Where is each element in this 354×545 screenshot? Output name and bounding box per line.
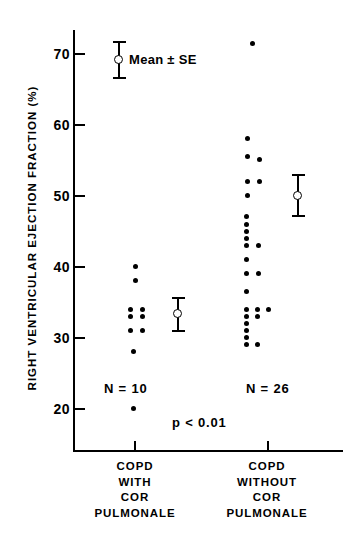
y-tick-70	[75, 53, 85, 55]
data-point	[131, 349, 136, 354]
y-tick-label-60: 60	[36, 117, 70, 133]
y-tick-60	[75, 124, 85, 126]
cat-right-line-1: COPD	[207, 459, 327, 475]
y-tick-30	[75, 337, 85, 339]
cat-left-line-2: WITH	[75, 475, 195, 491]
data-point	[244, 222, 249, 227]
mean-circle-right	[293, 191, 302, 200]
data-point	[244, 229, 249, 234]
data-point	[128, 307, 133, 312]
data-point	[133, 278, 138, 283]
data-point	[245, 193, 250, 198]
data-point	[244, 289, 249, 294]
y-tick-label-50: 50	[36, 188, 70, 204]
cat-right-line-4: PULMONALE	[207, 506, 327, 522]
y-axis-line	[73, 30, 75, 452]
data-point	[244, 314, 249, 319]
cat-right-line-2: WITHOUT	[207, 475, 327, 491]
data-point	[140, 307, 145, 312]
y-tick-40	[75, 266, 85, 268]
data-point	[244, 328, 249, 333]
data-point	[245, 136, 250, 141]
y-tick-50	[75, 195, 85, 197]
x-category-label-right: COPD WITHOUT COR PULMONALE	[207, 459, 327, 521]
n-label-right: N = 26	[246, 381, 289, 396]
mean-circle-left	[173, 309, 182, 318]
y-tick-label-30: 30	[36, 330, 70, 346]
data-point	[245, 179, 250, 184]
x-axis-line	[73, 450, 343, 452]
data-point	[244, 271, 249, 276]
p-value-label: p < 0.01	[172, 415, 226, 430]
data-point	[250, 41, 255, 46]
mean-se-marker-left	[171, 297, 185, 332]
y-tick-label-40: 40	[36, 259, 70, 275]
mean-se-marker-right	[291, 174, 305, 217]
data-point	[244, 321, 249, 326]
data-point	[245, 154, 250, 159]
data-point	[255, 314, 260, 319]
data-point	[140, 328, 145, 333]
x-tick-right-group	[267, 441, 269, 450]
data-point	[244, 236, 249, 241]
data-point	[140, 314, 145, 319]
data-point	[244, 214, 249, 219]
data-point	[256, 243, 261, 248]
data-point	[131, 406, 136, 411]
data-point	[244, 307, 249, 312]
y-tick-label-70: 70	[36, 46, 70, 62]
legend-cap-bottom	[113, 77, 126, 79]
legend-label: Mean ± SE	[129, 52, 197, 67]
mean-cap-bottom-right	[292, 215, 305, 217]
data-point	[257, 179, 262, 184]
y-tick-20	[75, 408, 85, 410]
y-tick-label-20: 20	[36, 401, 70, 417]
cat-right-line-3: COR	[207, 490, 327, 506]
data-point	[244, 342, 249, 347]
x-category-label-left: COPD WITH COR PULMONALE	[75, 459, 195, 521]
legend-mean-se-marker	[112, 41, 126, 79]
legend-mean-circle	[114, 55, 123, 64]
data-point	[244, 335, 249, 340]
x-tick-left-group	[134, 441, 136, 450]
data-point	[128, 328, 133, 333]
data-point	[244, 243, 249, 248]
data-point	[266, 307, 271, 312]
figure-scatter-plot: RIGHT VENTRICULAR EJECTION FRACTION (%) …	[0, 0, 354, 545]
data-point	[133, 264, 138, 269]
data-point	[255, 307, 260, 312]
data-point	[257, 157, 262, 162]
data-point	[255, 342, 260, 347]
cat-left-line-3: COR	[75, 490, 195, 506]
data-point	[244, 257, 249, 262]
y-axis-title: RIGHT VENTRICULAR EJECTION FRACTION (%)	[26, 28, 38, 448]
n-label-left: N = 10	[104, 381, 147, 396]
cat-left-line-1: COPD	[75, 459, 195, 475]
mean-cap-bottom-left	[172, 330, 185, 332]
data-point	[128, 314, 133, 319]
cat-left-line-4: PULMONALE	[75, 506, 195, 522]
data-point	[256, 271, 261, 276]
